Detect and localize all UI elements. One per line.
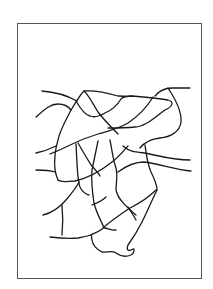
line [123,146,190,160]
drawing-canvas [0,0,213,289]
line [76,96,132,117]
line [50,235,91,238]
line [118,162,191,172]
line-drawing-figure [0,0,213,289]
line [43,182,79,215]
line [91,190,157,256]
line [62,205,63,235]
line [36,104,71,117]
line [92,141,104,228]
line [55,110,71,180]
line [36,170,55,172]
line [145,145,157,190]
line [36,146,56,153]
drawing-lines [36,88,191,256]
line [42,91,77,101]
line [104,228,116,230]
